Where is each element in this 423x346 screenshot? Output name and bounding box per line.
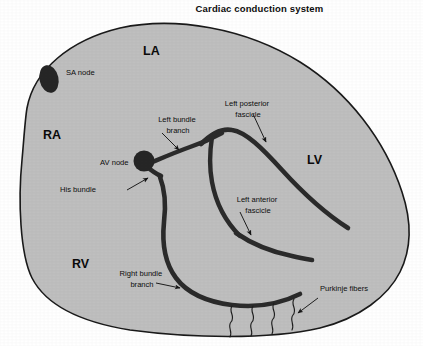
- chamber-label-ra: RA: [43, 128, 61, 142]
- left-anterior-fascicle-label-line1: Left anterior: [237, 195, 278, 204]
- left-bundle-branch-label-line2: branch: [166, 126, 189, 135]
- sa-node-label: SA node: [66, 68, 95, 77]
- av-node: [134, 151, 155, 172]
- purkinje-fibers-label: Purkinje fibers: [320, 284, 368, 293]
- right-bundle-branch-label-line2: branch: [130, 280, 153, 289]
- chamber-label-rv: RV: [72, 257, 90, 271]
- chamber-label-lv: LV: [307, 153, 323, 167]
- left-anterior-fascicle-label-line2: fascicle: [245, 206, 270, 215]
- heart-diagram: LA RA LV RV SA node AV node His bundle L…: [0, 0, 423, 346]
- his-bundle-label: His bundle: [60, 185, 96, 194]
- left-bundle-branch-label-line1: Left bundle: [158, 115, 196, 124]
- chamber-label-la: LA: [143, 44, 160, 58]
- av-node-label: AV node: [100, 158, 129, 167]
- left-posterior-fascicle-label-line1: Left posterior: [225, 99, 270, 108]
- right-bundle-branch-label-line1: Right bundle: [120, 269, 163, 278]
- left-posterior-fascicle-label-line2: fascicle: [235, 110, 260, 119]
- cardiac-conduction-figure: Cardiac conduction system: [0, 0, 423, 346]
